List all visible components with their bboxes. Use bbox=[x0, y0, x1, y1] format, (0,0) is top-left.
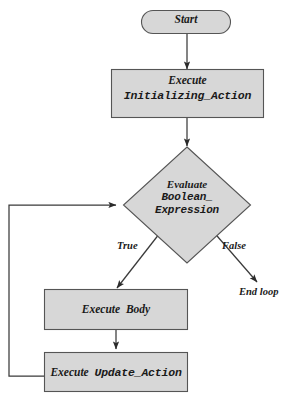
node-start bbox=[142, 11, 231, 34]
edge-false-to-endloop bbox=[211, 229, 257, 282]
edge-true-to-body bbox=[117, 229, 163, 288]
node-decision-boolean-expression bbox=[124, 147, 251, 263]
node-execute-body bbox=[45, 290, 188, 330]
flowchart-canvas bbox=[0, 0, 303, 401]
node-initializing-action bbox=[112, 70, 264, 118]
node-execute-update-action bbox=[45, 353, 188, 392]
